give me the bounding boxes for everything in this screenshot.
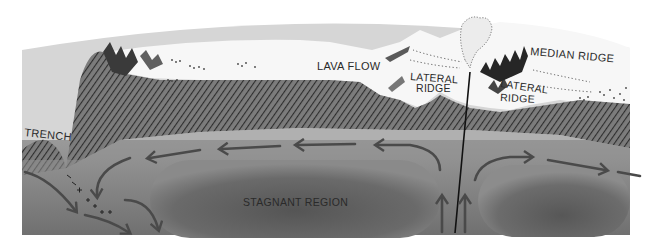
label-lateral-ridge-left-2: RIDGE <box>416 82 451 94</box>
flow-arrow-left-3 <box>298 144 355 145</box>
label-lava-flow: LAVA FLOW <box>317 60 381 72</box>
ridge-cross-section-diagram: TRENCH LAVA FLOW LATERAL RIDGE MEDIAN RI… <box>0 0 663 243</box>
label-lateral-ridge-right-2: RIDGE <box>500 91 535 105</box>
label-stagnant-region: STAGNANT REGION <box>243 196 348 208</box>
stagnant-region-right <box>478 165 630 237</box>
